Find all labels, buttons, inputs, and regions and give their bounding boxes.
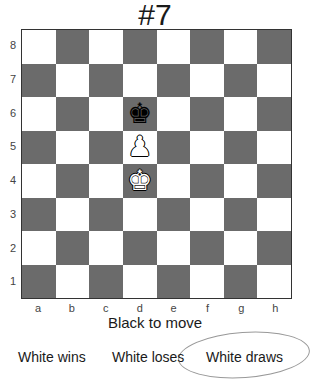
square-c1[interactable] bbox=[89, 265, 123, 299]
square-g6[interactable] bbox=[224, 97, 258, 131]
square-b4[interactable] bbox=[56, 164, 90, 198]
square-e7[interactable] bbox=[157, 64, 191, 98]
square-g2[interactable] bbox=[224, 231, 258, 265]
rank-label-3: 3 bbox=[8, 208, 18, 220]
square-f2[interactable] bbox=[190, 231, 224, 265]
white-pawn-icon[interactable]: ♟ bbox=[127, 133, 152, 161]
square-c4[interactable] bbox=[89, 164, 123, 198]
square-e6[interactable] bbox=[157, 97, 191, 131]
square-a3[interactable] bbox=[22, 198, 56, 232]
square-a5[interactable] bbox=[22, 131, 56, 165]
square-b1[interactable] bbox=[56, 265, 90, 299]
square-c7[interactable] bbox=[89, 64, 123, 98]
rank-label-4: 4 bbox=[8, 174, 18, 186]
square-d3[interactable] bbox=[123, 198, 157, 232]
file-label-b: b bbox=[55, 302, 89, 314]
rank-label-6: 6 bbox=[8, 107, 18, 119]
square-g8[interactable] bbox=[224, 30, 258, 64]
square-b2[interactable] bbox=[56, 231, 90, 265]
square-a7[interactable] bbox=[22, 64, 56, 98]
rank-label-1: 1 bbox=[8, 275, 18, 287]
square-b3[interactable] bbox=[56, 198, 90, 232]
answer-white-wins[interactable]: White wins bbox=[18, 349, 86, 365]
square-a6[interactable] bbox=[22, 97, 56, 131]
square-b5[interactable] bbox=[56, 131, 90, 165]
file-label-d: d bbox=[123, 302, 157, 314]
file-label-h: h bbox=[258, 302, 292, 314]
square-b6[interactable] bbox=[56, 97, 90, 131]
rank-label-2: 2 bbox=[8, 242, 18, 254]
square-d5[interactable]: ♟ bbox=[123, 131, 157, 165]
rank-label-7: 7 bbox=[8, 73, 18, 85]
square-g3[interactable] bbox=[224, 198, 258, 232]
square-f5[interactable] bbox=[190, 131, 224, 165]
square-c6[interactable] bbox=[89, 97, 123, 131]
square-f1[interactable] bbox=[190, 265, 224, 299]
square-f6[interactable] bbox=[190, 97, 224, 131]
side-to-move-label: Black to move bbox=[0, 314, 310, 331]
square-c8[interactable] bbox=[89, 30, 123, 64]
square-b8[interactable] bbox=[56, 30, 90, 64]
square-h3[interactable] bbox=[257, 198, 291, 232]
answer-white-loses[interactable]: White loses bbox=[112, 349, 184, 365]
square-e4[interactable] bbox=[157, 164, 191, 198]
square-e2[interactable] bbox=[157, 231, 191, 265]
square-h8[interactable] bbox=[257, 30, 291, 64]
file-label-g: g bbox=[224, 302, 258, 314]
square-a1[interactable] bbox=[22, 265, 56, 299]
square-d6[interactable]: ♚ bbox=[123, 97, 157, 131]
square-e5[interactable] bbox=[157, 131, 191, 165]
rank-label-5: 5 bbox=[8, 140, 18, 152]
square-g5[interactable] bbox=[224, 131, 258, 165]
square-h6[interactable] bbox=[257, 97, 291, 131]
square-h1[interactable] bbox=[257, 265, 291, 299]
square-h4[interactable] bbox=[257, 164, 291, 198]
file-label-e: e bbox=[157, 302, 191, 314]
square-a8[interactable] bbox=[22, 30, 56, 64]
square-d4[interactable]: ♚ bbox=[123, 164, 157, 198]
file-label-c: c bbox=[89, 302, 123, 314]
square-f3[interactable] bbox=[190, 198, 224, 232]
square-f8[interactable] bbox=[190, 30, 224, 64]
puzzle-title: #7 bbox=[0, 0, 310, 32]
square-f4[interactable] bbox=[190, 164, 224, 198]
square-d1[interactable] bbox=[123, 265, 157, 299]
square-h2[interactable] bbox=[257, 231, 291, 265]
square-a2[interactable] bbox=[22, 231, 56, 265]
square-g7[interactable] bbox=[224, 64, 258, 98]
square-h5[interactable] bbox=[257, 131, 291, 165]
square-f7[interactable] bbox=[190, 64, 224, 98]
file-label-f: f bbox=[191, 302, 225, 314]
square-d7[interactable] bbox=[123, 64, 157, 98]
square-e1[interactable] bbox=[157, 265, 191, 299]
white-king-icon[interactable]: ♚ bbox=[127, 167, 152, 195]
square-d8[interactable] bbox=[123, 30, 157, 64]
square-h7[interactable] bbox=[257, 64, 291, 98]
square-a4[interactable] bbox=[22, 164, 56, 198]
square-g1[interactable] bbox=[224, 265, 258, 299]
chess-board[interactable]: ♚♟♚ bbox=[21, 29, 292, 299]
square-b7[interactable] bbox=[56, 64, 90, 98]
square-c5[interactable] bbox=[89, 131, 123, 165]
square-e8[interactable] bbox=[157, 30, 191, 64]
square-c3[interactable] bbox=[89, 198, 123, 232]
rank-label-8: 8 bbox=[8, 39, 18, 51]
file-label-a: a bbox=[21, 302, 55, 314]
square-g4[interactable] bbox=[224, 164, 258, 198]
square-c2[interactable] bbox=[89, 231, 123, 265]
black-king-icon[interactable]: ♚ bbox=[127, 100, 152, 128]
answer-white-draws[interactable]: White draws bbox=[206, 349, 283, 365]
square-d2[interactable] bbox=[123, 231, 157, 265]
square-e3[interactable] bbox=[157, 198, 191, 232]
